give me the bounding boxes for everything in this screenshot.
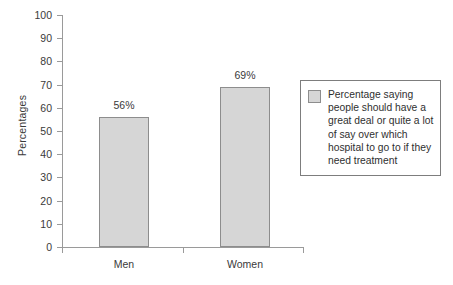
y-axis-tick-label: 100 (26, 10, 52, 21)
bar-women (220, 87, 270, 247)
legend-swatch-icon (308, 90, 321, 103)
bar-value-label-men: 56% (94, 99, 154, 111)
y-axis-tick (57, 85, 62, 86)
y-axis-tick-label: 50 (26, 126, 52, 137)
bar-men (99, 117, 149, 247)
x-axis-category-label-men: Men (84, 258, 164, 270)
y-axis-tick-label: 80 (26, 56, 52, 67)
y-axis-tick-label: 60 (26, 103, 52, 114)
y-axis-tick-label: 10 (26, 219, 52, 230)
y-axis-line (62, 15, 63, 248)
y-axis-tick (57, 224, 62, 225)
y-axis-tick-label: 0 (26, 242, 52, 253)
chart-legend: Percentage saying people should have a g… (300, 80, 441, 176)
y-axis-tick (57, 61, 62, 62)
y-axis-tick (57, 15, 62, 16)
x-axis-tick-end (303, 248, 304, 253)
y-axis-tick (57, 201, 62, 202)
y-axis-tick (57, 108, 62, 109)
y-axis-tick-label: 70 (26, 80, 52, 91)
bar-chart: Percentages 0102030405060708090100 56%Me… (0, 0, 453, 285)
y-axis-tick-label: 90 (26, 33, 52, 44)
bar-value-label-women: 69% (215, 69, 275, 81)
x-axis-tick-start (62, 248, 63, 253)
y-axis-tick (57, 177, 62, 178)
y-axis-tick (57, 154, 62, 155)
y-axis-tick (57, 38, 62, 39)
legend-label: Percentage saying people should have a g… (328, 88, 434, 167)
y-axis-tick-label: 30 (26, 172, 52, 183)
x-axis-category-label-women: Women (205, 258, 285, 270)
x-axis-tick-middle (183, 248, 184, 253)
y-axis-tick-label: 20 (26, 196, 52, 207)
y-axis-tick-label: 40 (26, 149, 52, 160)
y-axis-tick (57, 131, 62, 132)
